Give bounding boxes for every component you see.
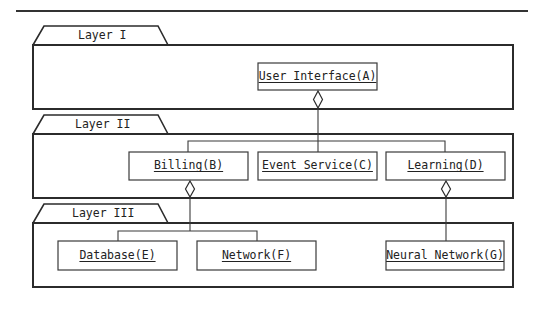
component-learning[interactable]: Learning(D) (386, 152, 505, 180)
component-event-service[interactable]: Event Service(C) (258, 152, 377, 180)
layer-2-label: Layer II (75, 119, 130, 131)
layer-1-label: Layer I (78, 30, 126, 42)
component-label: Database(E) (58, 250, 177, 262)
component-label: Event Service(C) (258, 160, 377, 172)
component-label: User Interface(A) (258, 71, 377, 83)
component-network[interactable]: Network(F) (197, 241, 316, 270)
component-user-interface[interactable]: User Interface(A) (258, 63, 377, 90)
component-database[interactable]: Database(E) (58, 241, 177, 270)
layer-3-label: Layer III (72, 208, 134, 220)
component-neural-network[interactable]: Neural Network(G) (386, 241, 504, 270)
component-label: Billing(B) (129, 160, 248, 172)
component-label: Learning(D) (386, 160, 505, 172)
component-label: Neural Network(G) (386, 250, 504, 262)
component-label: Network(F) (197, 250, 316, 262)
component-billing[interactable]: Billing(B) (129, 152, 248, 180)
